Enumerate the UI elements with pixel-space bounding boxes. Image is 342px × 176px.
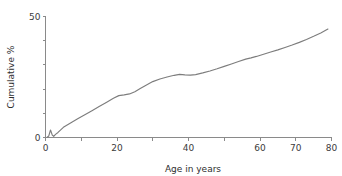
- x-axis-tick-label: 40: [183, 143, 195, 153]
- y-axis-tick-labels: 050: [29, 12, 41, 143]
- x-axis-tick-label: 70: [290, 143, 302, 153]
- y-axis-title: Cumulative %: [6, 45, 16, 108]
- x-axis-tick-label: 80: [326, 143, 338, 153]
- x-axis-tick-label: 20: [111, 143, 123, 153]
- chart-figure: 050 02040607080 Age in years Cumulative …: [0, 0, 342, 176]
- x-axis-tick-label: 0: [43, 143, 49, 153]
- x-axis-tick-labels: 02040607080: [43, 143, 338, 153]
- x-axis: 02040607080: [43, 138, 338, 153]
- x-axis-tick-label: 60: [254, 143, 266, 153]
- y-axis: 050: [29, 12, 45, 143]
- y-axis-tick-label: 50: [29, 12, 41, 22]
- data-series-group: [47, 29, 328, 137]
- y-axis-tick-label: 0: [35, 133, 41, 143]
- chart-canvas: 050 02040607080 Age in years Cumulative …: [0, 0, 342, 176]
- series-line-cumulative-percent: [47, 29, 328, 137]
- x-axis-title: Age in years: [165, 164, 221, 174]
